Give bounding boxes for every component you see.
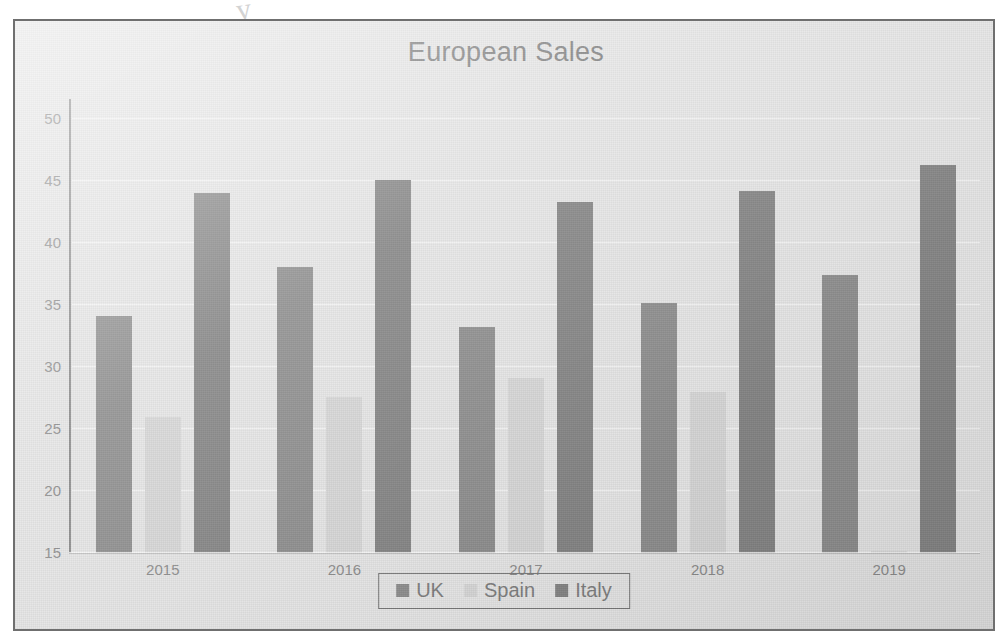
bar-uk-2015[interactable] <box>96 316 132 553</box>
value-axis-tick-label: 15 <box>44 544 61 561</box>
value-axis-tick-label: 30 <box>44 358 61 375</box>
value-axis-tick-label: 25 <box>44 420 61 437</box>
legend-square-swatch <box>555 584 568 597</box>
legend-item-uk[interactable]: UK <box>396 579 444 602</box>
bar-italy-2017[interactable] <box>557 202 593 553</box>
gridline <box>72 118 980 119</box>
legend-item-label: Spain <box>484 579 535 602</box>
legend-square-swatch <box>464 584 477 597</box>
chart-legend[interactable]: UKSpainItaly <box>378 573 630 609</box>
chart-title: European Sales <box>15 37 995 68</box>
value-axis-tick-label: 40 <box>44 234 61 251</box>
bar-spain-2015[interactable] <box>145 417 181 553</box>
category-axis-tick-label: 2018 <box>691 561 724 578</box>
legend-item-label: Italy <box>575 579 612 602</box>
gridline <box>72 180 980 181</box>
legend-item-label: UK <box>416 579 444 602</box>
chart-frame[interactable]: European Sales 5045403530252015 20152016… <box>13 19 995 631</box>
bar-italy-2016[interactable] <box>375 180 411 553</box>
plot-area: 5045403530252015 20152016201720182019 <box>72 99 980 553</box>
bar-spain-2016[interactable] <box>326 397 362 553</box>
legend-square-swatch <box>396 584 409 597</box>
category-axis-tick-label: 2016 <box>328 561 361 578</box>
bar-uk-2018[interactable] <box>641 303 677 553</box>
bar-italy-2018[interactable] <box>739 191 775 553</box>
value-axis-tick-label: 45 <box>44 172 61 189</box>
scanned-page-background: y European Sales 5045403530252015 201520… <box>0 0 1005 643</box>
bar-spain-2018[interactable] <box>690 392 726 553</box>
bar-uk-2016[interactable] <box>277 267 313 553</box>
bar-italy-2015[interactable] <box>194 193 230 553</box>
bar-italy-2019[interactable] <box>920 165 956 553</box>
value-axis-tick-label: 20 <box>44 482 61 499</box>
bar-uk-2019[interactable] <box>822 275 858 553</box>
legend-item-italy[interactable]: Italy <box>555 579 612 602</box>
category-axis-tick-label: 2015 <box>146 561 179 578</box>
category-axis-line <box>69 552 980 554</box>
value-axis-tick-label: 35 <box>44 296 61 313</box>
value-axis-line <box>69 99 71 553</box>
category-axis-tick-label: 2019 <box>873 561 906 578</box>
bar-spain-2017[interactable] <box>508 378 544 553</box>
bar-uk-2017[interactable] <box>459 327 495 553</box>
value-axis-tick-label: 50 <box>44 110 61 127</box>
legend-item-spain[interactable]: Spain <box>464 579 535 602</box>
